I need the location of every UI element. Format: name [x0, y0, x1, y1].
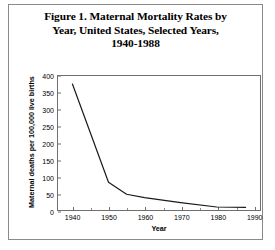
y-tick-label: 150 — [42, 158, 54, 165]
x-tick-label: 1980 — [210, 214, 226, 221]
y-tick-label: 350 — [42, 90, 54, 97]
x-tick-label: 1990 — [247, 214, 263, 221]
x-tick-label: 1960 — [138, 214, 154, 221]
figure-title: Figure 1. Maternal Mortality Rates by Ye… — [19, 10, 252, 51]
y-tick-label: 400 — [42, 73, 54, 80]
x-axis-title: Year — [58, 224, 260, 233]
figure-title-line-3: 1940-1988 — [19, 37, 252, 51]
figure-title-line-1: Figure 1. Maternal Mortality Rates by — [19, 10, 252, 24]
y-tick-label: 100 — [42, 175, 54, 182]
y-tick-label: 200 — [42, 141, 54, 148]
figure-title-line-2: Year, United States, Selected Years, — [19, 24, 252, 38]
y-tick-label: 0 — [50, 209, 54, 216]
mortality-line-path — [72, 84, 245, 207]
x-tick-label: 1940 — [65, 214, 81, 221]
plot-area: Maternal deaths per 100,000 live births … — [57, 75, 261, 211]
x-tick-label: 1950 — [101, 214, 117, 221]
y-tick-label: 250 — [42, 124, 54, 131]
y-tick-label: 50 — [46, 192, 54, 199]
y-tick-label: 300 — [42, 107, 54, 114]
x-tick-label: 1970 — [174, 214, 190, 221]
y-tick-mark — [58, 212, 61, 213]
y-axis-title: Maternal deaths per 100,000 live births — [27, 80, 39, 208]
figure-frame: Figure 1. Maternal Mortality Rates by Ye… — [8, 4, 263, 240]
mortality-line-series — [58, 76, 260, 210]
